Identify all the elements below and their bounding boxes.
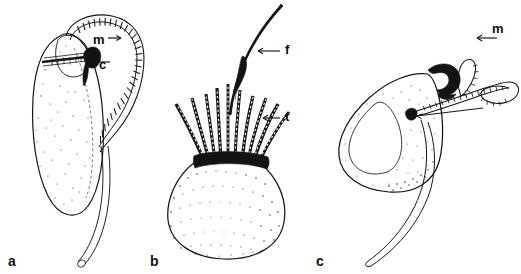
callout-label-b-flagellum: f [285, 43, 289, 56]
body-vacuole-c [349, 102, 402, 174]
ribbon-lower-rail [414, 88, 509, 117]
panel-a [0, 0, 160, 274]
stalk-a-left [78, 146, 103, 262]
stalk-c-right [371, 122, 435, 266]
panel-a-drawing [0, 0, 160, 274]
ribbon-loop-fringe [479, 92, 507, 106]
panel-b-letter: b [150, 254, 159, 268]
panel-c [315, 0, 521, 274]
panel-c-drawing [315, 0, 521, 274]
callout-leader-b-f [258, 48, 280, 54]
body-stipple-a [36, 46, 91, 205]
callout-leader-a-m [108, 35, 121, 40]
ribbon-fringe [423, 86, 503, 111]
tentacle [235, 90, 240, 160]
stalk-c-tip [366, 262, 371, 267]
panel-a-letter: a [8, 254, 16, 268]
stalk-c-left [367, 120, 427, 262]
body-stipple-b [170, 170, 279, 256]
stalk-a-open-end [76, 258, 86, 268]
cytostome-tail [83, 62, 88, 86]
cell-body-c [339, 74, 443, 193]
membranelle-row [78, 18, 143, 143]
callout-label-b-tentacles: t [285, 110, 289, 123]
body-fold-line-a [74, 48, 93, 198]
callout-label-a-cytostome: c [99, 58, 106, 71]
callout-label-c-membranelle-ribbon: m [492, 22, 504, 35]
panel-c-letter: c [316, 254, 324, 268]
figure-canvas: a m c [0, 0, 521, 274]
ribbon-proximal-loop [458, 60, 475, 97]
panel-b-drawing [150, 0, 320, 274]
callout-label-a-membranelles: m [93, 33, 105, 46]
ribbon-base-knot [406, 108, 418, 120]
ribbon-distal-loop [481, 82, 519, 103]
panel-b [150, 0, 320, 274]
cell-body-b [168, 159, 285, 259]
